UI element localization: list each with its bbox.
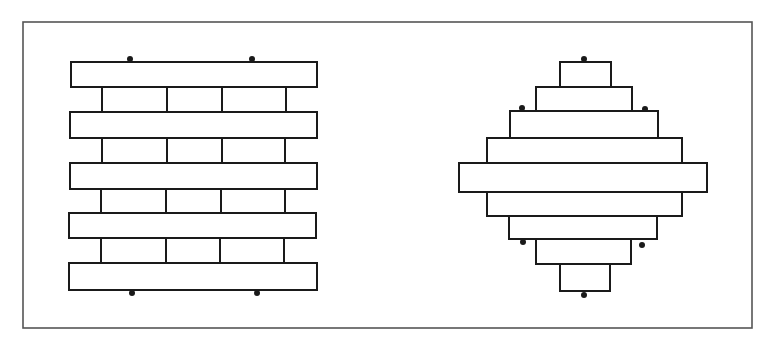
stack-block-9	[560, 264, 610, 291]
stack-block-1	[560, 62, 611, 87]
long-bar-1	[71, 62, 317, 87]
stack-block-7	[509, 216, 657, 239]
stack-block-6	[487, 192, 682, 216]
attachment-dot-icon	[581, 56, 587, 62]
long-bar-3	[70, 163, 317, 189]
right-figure-stepped-diamond-stack	[459, 56, 707, 298]
stack-block-2	[536, 87, 632, 111]
attachment-dot-icon	[520, 239, 526, 245]
attachment-dot-icon	[519, 105, 525, 111]
left-figure-straight-bond-wall	[69, 56, 317, 296]
attachment-dot-icon	[642, 106, 648, 112]
stack-block-5	[459, 163, 707, 192]
attachment-dot-icon	[639, 242, 645, 248]
long-bar-2	[70, 112, 317, 138]
attachment-dot-icon	[129, 290, 135, 296]
attachment-dot-icon	[127, 56, 133, 62]
attachment-dot-icon	[249, 56, 255, 62]
stack-block-8	[536, 239, 631, 264]
stack-block-3	[510, 111, 658, 138]
stack-block-4	[487, 138, 682, 163]
attachment-dot-icon	[254, 290, 260, 296]
attachment-dot-icon	[581, 292, 587, 298]
long-bar-4	[69, 213, 316, 238]
diagram-canvas	[0, 0, 774, 342]
long-bar-5	[69, 263, 317, 290]
